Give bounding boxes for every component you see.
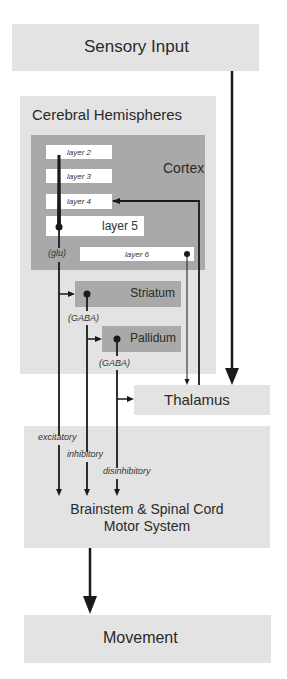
layer-4: layer 4 [46, 194, 112, 209]
layer-2: layer 2 [46, 145, 112, 159]
striatum-gaba-label: (GABA) [68, 313, 99, 323]
inhibitory-label: inhibitory [67, 449, 103, 459]
excitatory-label: excitatory [38, 432, 77, 442]
pallidum-gaba-label: (GABA) [99, 358, 130, 368]
brainstem-line-1: Brainstem & Spinal Cord [24, 501, 270, 518]
movement-box: Movement [24, 615, 271, 663]
thalamus-box: Thalamus [134, 385, 270, 415]
brainstem-motor-box: Brainstem & Spinal Cord Motor System [24, 426, 270, 548]
pallidum-box: Pallidum [102, 326, 181, 352]
layer-6: layer 6 [80, 247, 194, 261]
sensory-input-box: Sensory Input [12, 24, 259, 71]
movement-label: Movement [103, 629, 178, 647]
thalamus-label: Thalamus [164, 391, 230, 408]
layer-3: layer 3 [46, 169, 112, 183]
cerebral-hemispheres-label: Cerebral Hemispheres [32, 106, 182, 123]
brainstem-line-2: Motor System [24, 518, 270, 535]
layer-5-label: layer 5 [102, 219, 138, 233]
cortex-label: Cortex [163, 160, 204, 176]
striatum-label: Striatum [130, 286, 175, 300]
glu-label: (glu) [48, 248, 66, 258]
layer-5: layer 5 [46, 216, 144, 236]
pallidum-label: Pallidum [130, 331, 176, 345]
sensory-input-label: Sensory Input [84, 37, 189, 57]
brainstem-label: Brainstem & Spinal Cord Motor System [24, 501, 270, 535]
disinhibitory-label: disinhibitory [103, 466, 151, 476]
striatum-box: Striatum [75, 281, 181, 307]
